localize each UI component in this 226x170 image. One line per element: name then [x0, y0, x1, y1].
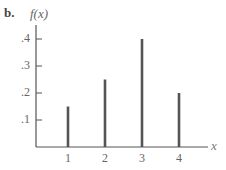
- x-tick-label: 4: [173, 151, 185, 166]
- x-tick-label: 1: [62, 151, 74, 166]
- x-tick-label: 2: [99, 151, 111, 166]
- x-tick-label: 3: [136, 151, 148, 166]
- y-tick-label: .1: [10, 112, 30, 127]
- y-tick-label: .2: [10, 85, 30, 100]
- y-tick-label: .4: [10, 31, 30, 46]
- y-tick-label: .3: [10, 58, 30, 73]
- chart-plot-area: [0, 0, 226, 170]
